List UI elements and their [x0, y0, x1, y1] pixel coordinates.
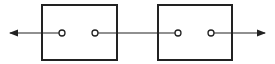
terminal-1a	[59, 30, 65, 36]
terminal-1b	[92, 30, 98, 36]
terminal-2a	[175, 30, 181, 36]
terminal-2b	[208, 30, 214, 36]
two-port-cascade-diagram	[0, 0, 275, 64]
